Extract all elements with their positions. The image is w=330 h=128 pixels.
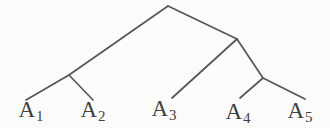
leaf-label-a3: A3 xyxy=(151,97,176,120)
leaf-label-a5: A5 xyxy=(287,99,312,122)
leaf-label-a4-subscript: 4 xyxy=(243,110,251,126)
leaf-label-a5-subscript: 5 xyxy=(305,109,313,125)
edge-right-node-to-a3 xyxy=(172,39,237,98)
leaf-label-a4-base: A xyxy=(225,99,242,124)
edge-lower-node-to-a4 xyxy=(240,78,263,98)
leaf-label-a1: A1 xyxy=(18,98,43,121)
edge-lower-node-to-a5 xyxy=(263,78,305,99)
leaf-label-a4: A4 xyxy=(225,100,250,123)
leaf-label-a1-base: A xyxy=(18,97,35,122)
leaf-label-a2-subscript: 2 xyxy=(98,108,106,124)
edge-root-to-right-node xyxy=(168,6,237,39)
leaf-label-a5-base: A xyxy=(287,98,304,123)
tree-diagram-figure: A1 A2 A3 A4 A5 xyxy=(0,0,330,128)
leaf-label-a3-subscript: 3 xyxy=(169,107,177,123)
edge-root-to-left-node xyxy=(69,6,168,75)
leaf-label-a2: A2 xyxy=(80,98,105,121)
leaf-label-a1-subscript: 1 xyxy=(36,108,44,124)
leaf-label-a3-base: A xyxy=(151,96,168,121)
edge-right-node-to-lower-node xyxy=(237,39,263,78)
leaf-label-a2-base: A xyxy=(80,97,97,122)
